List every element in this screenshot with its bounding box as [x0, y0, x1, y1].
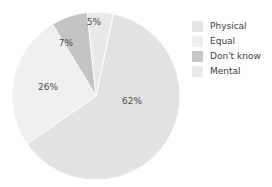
pie-graphic: 62% 26% 7% 5% [0, 0, 192, 187]
legend-item-physical[interactable]: Physical [192, 19, 272, 34]
pie-label-physical: 62% [122, 96, 142, 106]
pie-label-equal: 26% [38, 82, 58, 92]
pie-label-dont-know: 7% [59, 38, 74, 48]
legend-label-equal: Equal [210, 36, 235, 47]
legend-swatch-physical [192, 21, 203, 32]
legend-item-mental[interactable]: Mental [192, 64, 272, 79]
legend-item-dont-know[interactable]: Don't know [192, 49, 272, 64]
legend-label-physical: Physical [210, 21, 247, 32]
legend-item-equal[interactable]: Equal [192, 34, 272, 49]
legend-label-dont-know: Don't know [210, 51, 261, 62]
legend-swatch-equal [192, 36, 203, 47]
pie-label-mental: 5% [87, 17, 102, 27]
legend-label-mental: Mental [210, 66, 241, 77]
chart-legend: Physical Equal Don't know Mental [192, 19, 272, 79]
legend-swatch-mental [192, 66, 203, 77]
pie-slices [12, 12, 180, 180]
legend-swatch-dont-know [192, 51, 203, 62]
pie-chart-figure: 62% 26% 7% 5% Physical Equal Don't know … [0, 0, 272, 187]
